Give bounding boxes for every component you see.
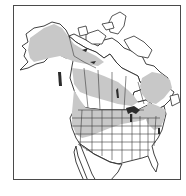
pacific-coast-islands [58, 72, 62, 86]
banks-island [78, 26, 88, 36]
lake-michigan [130, 114, 132, 122]
devon-island [102, 22, 114, 30]
map-frame [13, 5, 181, 180]
victoria-island [86, 30, 106, 44]
chesapeake-bay [158, 128, 160, 134]
newfoundland [170, 94, 180, 106]
range-map [14, 6, 181, 180]
